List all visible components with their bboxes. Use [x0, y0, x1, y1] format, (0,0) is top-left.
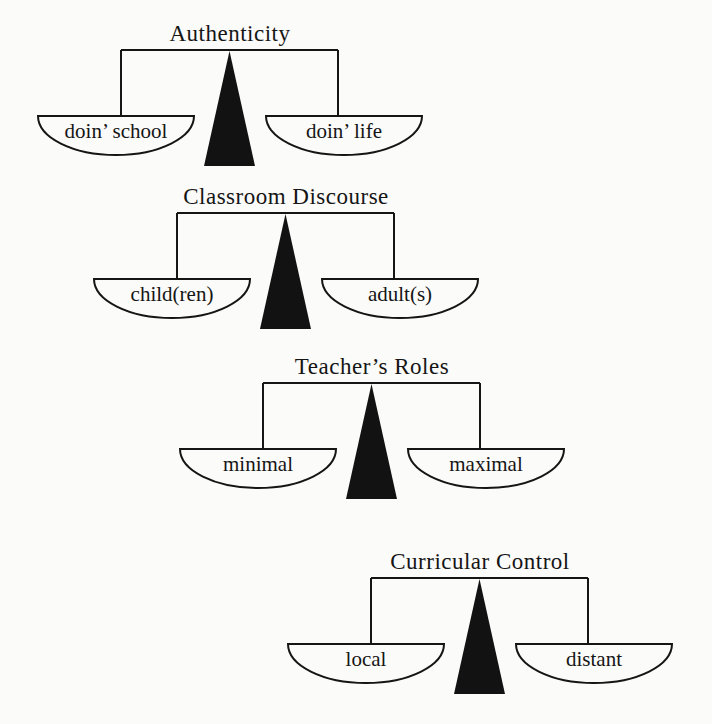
balance-scale-graphic: [37, 47, 423, 169]
balance-scale-graphic: [179, 380, 565, 502]
right-pan-label: adult(s): [321, 281, 479, 307]
fulcrum-triangle-icon: [204, 51, 255, 166]
balance-scale-graphic: [287, 575, 673, 697]
balance-scale-graphic: [93, 210, 479, 332]
left-pan-label: minimal: [179, 451, 337, 477]
scale-title: Teacher’s Roles: [179, 354, 565, 380]
scale-title: Authenticity: [37, 21, 423, 47]
left-pan-label: local: [287, 646, 445, 672]
fulcrum-triangle-icon: [454, 579, 505, 694]
right-pan-label: maximal: [407, 451, 565, 477]
left-pan-label: child(ren): [93, 281, 251, 307]
balance-scale-curricular-control: Curricular Control local distant: [287, 549, 673, 697]
fulcrum-triangle-icon: [346, 384, 397, 499]
left-pan-label: doin’ school: [37, 118, 195, 144]
fulcrum-triangle-icon: [260, 214, 311, 329]
right-pan-label: doin’ life: [265, 118, 423, 144]
scale-title: Curricular Control: [287, 549, 673, 575]
right-pan-label: distant: [515, 646, 673, 672]
balance-scale-classroom-discourse: Classroom Discourse child(ren) adult(s): [93, 184, 479, 332]
balance-scale-authenticity: Authenticity doin’ school doin’ life: [37, 21, 423, 169]
balance-scales-figure: Authenticity doin’ school doin’ life Cla…: [0, 0, 712, 724]
balance-scale-teachers-roles: Teacher’s Roles minimal maximal: [179, 354, 565, 502]
scale-title: Classroom Discourse: [93, 184, 479, 210]
